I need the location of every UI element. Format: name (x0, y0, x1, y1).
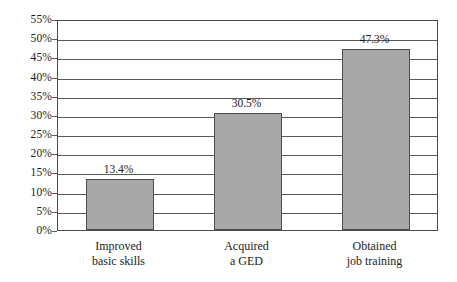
y-axis-tick-label: 50% (0, 33, 52, 45)
x-axis-category-label-line: a GED (177, 254, 317, 269)
y-axis-tick-label: 5% (0, 206, 52, 218)
x-axis-category-label-line: job training (305, 254, 445, 269)
bar-chart: 0%5%10%15%20%25%30%35%40%45%50%55% Impro… (0, 0, 457, 282)
x-axis-category-label: Obtainedjob training (305, 239, 445, 269)
y-axis-tick-label: 55% (0, 14, 52, 26)
y-axis: 0%5%10%15%20%25%30%35%40%45%50%55% (0, 0, 52, 282)
bar (342, 49, 410, 230)
bar-value-label: 30.5% (207, 98, 287, 110)
y-axis-tick-label: 40% (0, 72, 52, 84)
x-axis-category-label-line: Acquired (177, 239, 317, 254)
y-axis-tick-label: 20% (0, 148, 52, 160)
x-axis-category-label-line: Obtained (305, 239, 445, 254)
x-axis-category-label: Acquireda GED (177, 239, 317, 269)
bar (214, 113, 282, 230)
x-axis-category-label-line: basic skills (49, 254, 189, 269)
bar (86, 179, 154, 230)
y-axis-tick-label: 0% (0, 225, 52, 237)
plot-area (57, 20, 438, 231)
y-axis-tick-label: 35% (0, 91, 52, 103)
x-axis-category-label-line: Improved (49, 239, 189, 254)
bar-value-label: 47.3% (335, 34, 415, 46)
x-axis-category-label: Improvedbasic skills (49, 239, 189, 269)
y-axis-tick-label: 45% (0, 52, 52, 64)
y-axis-tick-label: 25% (0, 129, 52, 141)
y-axis-tick-label: 30% (0, 110, 52, 122)
y-axis-tick-mark (52, 231, 57, 232)
bar-value-label: 13.4% (79, 164, 159, 176)
y-axis-tick-label: 10% (0, 187, 52, 199)
y-axis-tick-label: 15% (0, 167, 52, 179)
